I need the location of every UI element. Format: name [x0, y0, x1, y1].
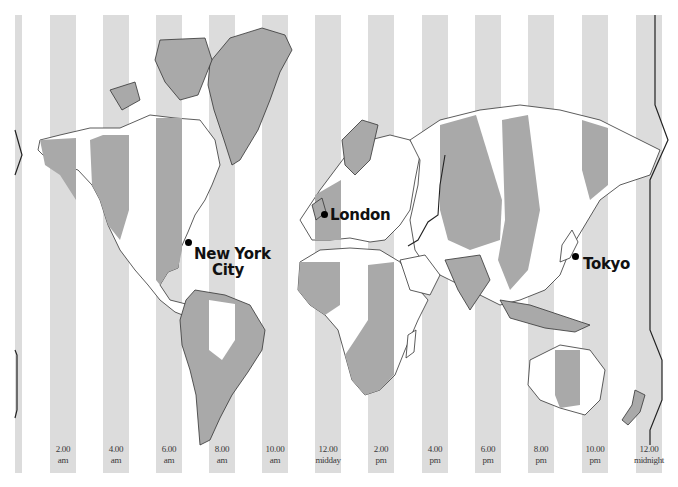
time-label-8pm: 8.00pm: [521, 444, 561, 466]
london-label: London: [330, 207, 390, 223]
time-label-4pm: 4.00pm: [415, 444, 455, 466]
time-label-6am: 6.00am: [149, 444, 189, 466]
time-label-6pm: 6.00pm: [468, 444, 508, 466]
arctic-island-west: [110, 82, 140, 110]
time-label-10am: 10.00am: [255, 444, 295, 466]
time-label-2am: 2.00am: [43, 444, 83, 466]
new-york-line2: City: [194, 262, 271, 278]
new-zealand: [622, 390, 645, 425]
tokyo-label: Tokyo: [583, 256, 630, 272]
date-line-left-edge-2: [15, 350, 17, 418]
time-label-midnight: 12.00midnight: [629, 444, 669, 466]
time-label-2pm: 2.00pm: [361, 444, 401, 466]
se-asia-islands: [500, 300, 590, 332]
tokyo-marker: [572, 253, 579, 260]
continents-layer: [0, 0, 678, 487]
time-label-10pm: 10.00pm: [575, 444, 615, 466]
new-york-marker: [185, 239, 192, 246]
north-america-zone-2: [156, 118, 182, 285]
alaska: [40, 138, 76, 200]
india: [445, 255, 490, 310]
date-line-left-edge: [15, 130, 22, 175]
time-label-4am: 4.00am: [96, 444, 136, 466]
greenland: [208, 28, 292, 165]
new-york-label: New York City: [194, 246, 271, 278]
north-america-zone: [90, 135, 129, 240]
australia-zone: [555, 350, 580, 408]
time-label-8am: 8.00am: [202, 444, 242, 466]
arctic-islands: [155, 38, 212, 100]
africa-west-zone: [298, 262, 340, 315]
time-zone-map: New York City London Tokyo 2.00am 4.00am…: [0, 0, 678, 487]
time-label-midday: 12.00midday: [308, 444, 348, 466]
london-marker: [321, 211, 328, 218]
new-york-line1: New York: [194, 246, 271, 262]
international-date-line: [650, 15, 668, 445]
